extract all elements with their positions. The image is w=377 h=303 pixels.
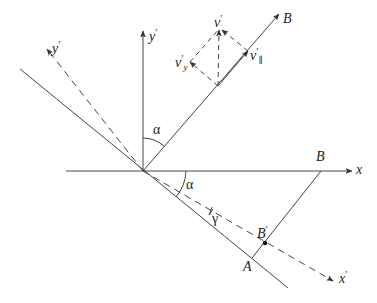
y-prime-dashed-label: y′ xyxy=(52,40,60,56)
alpha-text: α xyxy=(186,177,193,192)
v-y-to-v-dashed xyxy=(190,29,219,62)
x-prime-dashed-axis xyxy=(143,171,333,281)
subscript-parallel: ∥ xyxy=(258,55,262,65)
b-prime-text: B xyxy=(257,226,266,241)
b-prime-point-label: B′ xyxy=(257,225,268,241)
gamma-label: γ xyxy=(212,212,218,226)
y-prime-vertical-label: y′ xyxy=(149,28,157,44)
gamma-text: γ xyxy=(212,211,218,226)
prime-mark: ′ xyxy=(266,224,268,235)
alpha-text: α xyxy=(153,122,160,137)
b-prime-point xyxy=(263,241,267,245)
b-point-label: B xyxy=(316,150,325,164)
alpha-lower-label: α xyxy=(186,178,193,192)
x-axis-label: x xyxy=(356,163,362,177)
prime-mark: ′ xyxy=(155,27,157,38)
b-to-a-segment xyxy=(252,171,321,258)
v-prime-label: v′ xyxy=(214,14,222,30)
x-prime-axis-label: x′ xyxy=(339,270,347,286)
v-par-to-v-dashed xyxy=(222,30,248,51)
v-y-prime-vector xyxy=(190,62,218,86)
b-text: B xyxy=(283,11,292,26)
b-field-label: B xyxy=(283,12,292,26)
alpha-arc-lower xyxy=(176,171,186,197)
x-text: x xyxy=(356,162,362,177)
prime-mark: ′ xyxy=(58,39,60,50)
b-field-line xyxy=(143,14,279,171)
alpha-arc-upper xyxy=(143,138,164,146)
a-text: A xyxy=(243,259,252,274)
subscript-y: y xyxy=(183,62,187,72)
alpha-upper-label: α xyxy=(153,123,160,137)
a-point-label: A xyxy=(243,260,252,274)
tilted-solid-line xyxy=(20,69,288,288)
prime-mark: ′ xyxy=(345,269,347,280)
b-text: B xyxy=(316,149,325,164)
y-prime-dashed-axis xyxy=(47,49,143,171)
prime-mark: ′ xyxy=(220,13,222,24)
v-par-prime-vector xyxy=(218,51,248,86)
v-par-prime-label: v′∥ xyxy=(250,47,263,65)
v-prime-vector xyxy=(218,30,219,86)
v-y-prime-label: v′y xyxy=(175,54,187,72)
